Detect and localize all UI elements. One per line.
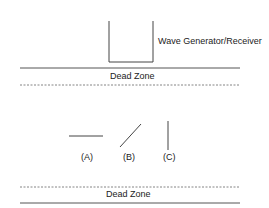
- bottom-dead-zone-label: Dead Zone: [106, 189, 151, 199]
- orientation-b-label: (B): [123, 152, 135, 162]
- orientation-c-label: (C): [163, 152, 176, 162]
- top-dead-zone-label: Dead Zone: [110, 71, 155, 81]
- orientation-b-line: [120, 124, 141, 147]
- wave-generator-box: [109, 21, 153, 62]
- device-label: Wave Generator/Receiver: [158, 36, 262, 46]
- orientation-a-label: (A): [81, 152, 93, 162]
- diagram-canvas: [0, 0, 269, 208]
